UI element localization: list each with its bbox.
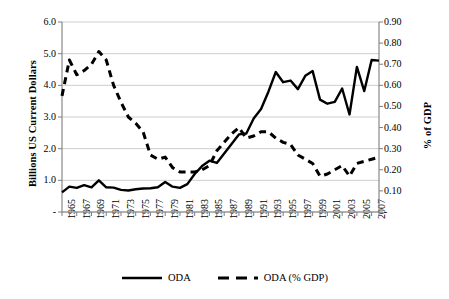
legend-item-oda: ODA xyxy=(121,272,191,283)
chart-legend: ODA ODA (% GDP) xyxy=(0,272,449,283)
data-series xyxy=(62,52,379,193)
legend-label-oda-pct-gdp: ODA (% GDP) xyxy=(264,272,328,283)
legend-item-oda-pct-gdp: ODA (% GDP) xyxy=(217,272,328,283)
plot-area xyxy=(0,0,449,299)
legend-swatch-solid xyxy=(121,273,163,283)
chart-container: Billions US Current Dollars % of GDP 6.0… xyxy=(0,0,449,299)
series-line-oda xyxy=(62,60,379,192)
legend-label-oda: ODA xyxy=(168,272,191,283)
legend-swatch-dashed xyxy=(217,273,259,283)
gridlines xyxy=(62,22,379,212)
